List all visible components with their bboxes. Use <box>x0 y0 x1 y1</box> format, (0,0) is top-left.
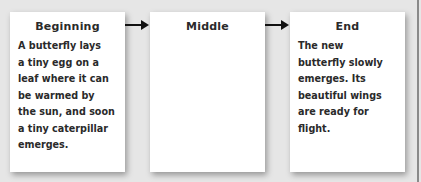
box-text-end: The new butterfly slowly emerges. Its be… <box>298 38 399 137</box>
arrow-beginning-to-middle-icon <box>125 22 149 28</box>
right-edge-divider <box>417 0 419 182</box>
box-text-beginning: A butterfly lays a tiny egg on a leaf wh… <box>18 38 119 154</box>
box-title-beginning: Beginning <box>10 20 125 33</box>
box-end: End The new butterfly slowly emerges. It… <box>290 12 405 172</box>
box-beginning: Beginning A butterfly lays a tiny egg on… <box>10 12 125 172</box>
box-title-middle: Middle <box>150 20 265 33</box>
box-title-end: End <box>290 20 405 33</box>
arrow-middle-to-end-icon <box>265 22 289 28</box>
box-middle: Middle <box>150 12 265 172</box>
